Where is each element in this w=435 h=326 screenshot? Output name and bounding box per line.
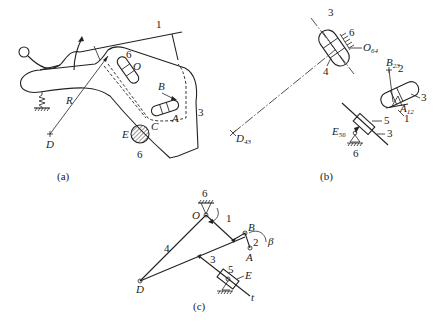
mechanism-figure: R D 6 O B A 3 1 E C 6 (a) xyxy=(0,0,435,326)
label-D: D xyxy=(135,283,144,295)
leader-4 xyxy=(327,58,331,66)
link4 xyxy=(140,215,206,281)
label-t: t xyxy=(251,291,255,303)
label-beta: β xyxy=(267,235,274,247)
handle-ring xyxy=(19,47,29,57)
caption-b: (b) xyxy=(320,170,333,183)
label-1: 1 xyxy=(226,212,232,224)
label-C: C xyxy=(151,120,159,132)
label-4: 4 xyxy=(164,242,170,254)
spring-icon xyxy=(39,92,45,108)
pin-E56 xyxy=(353,131,357,135)
rotation-arrow-head xyxy=(78,36,84,42)
B-arrow-head xyxy=(171,96,177,100)
label-3: 3 xyxy=(198,106,204,118)
label-1: 1 xyxy=(404,112,410,124)
label-6: 6 xyxy=(202,187,208,199)
caption-c: (c) xyxy=(193,300,206,313)
line-D43-O64 xyxy=(233,50,335,133)
ground-hatch-icon xyxy=(218,291,232,294)
label-O64: O64 xyxy=(363,41,378,55)
label-R: R xyxy=(65,94,73,106)
label-2: 2 xyxy=(398,62,404,74)
link1-right-edge xyxy=(172,34,178,60)
label-B: B xyxy=(158,80,165,92)
ground-hatch-icon xyxy=(348,143,362,146)
slider-wedge xyxy=(354,126,360,133)
label-5: 5 xyxy=(228,263,234,275)
label-O: O xyxy=(192,209,200,221)
label-6-bottom: 6 xyxy=(137,148,143,160)
label-O: O xyxy=(133,60,141,72)
label-A: A xyxy=(245,251,253,263)
caption-a: (a) xyxy=(57,170,70,183)
label-A: A xyxy=(171,112,179,124)
label-3-top: 3 xyxy=(328,6,334,18)
line-B23-A12 xyxy=(389,70,393,102)
label-1: 1 xyxy=(156,18,162,30)
label-3: 3 xyxy=(210,253,216,265)
label-2: 2 xyxy=(253,236,259,248)
label-5: 5 xyxy=(384,114,390,126)
label-3-bottom: 3 xyxy=(387,127,393,139)
label-6-bottom: 6 xyxy=(353,147,359,159)
label-E: E xyxy=(244,269,252,281)
label-3-right: 3 xyxy=(421,91,427,103)
label-D: D xyxy=(45,138,54,150)
panel-b: D43 O64 3 6 4 B23 2 3 A12 1 xyxy=(230,6,427,183)
slider-O64 xyxy=(315,26,353,69)
label-D43: D43 xyxy=(235,132,251,146)
leader-E xyxy=(237,276,244,279)
panel-c: 6 4 1 O B 2 A β 3 t xyxy=(135,187,274,313)
label-6-top: 6 xyxy=(349,26,355,38)
label-E56: E56 xyxy=(331,125,346,139)
label-E: E xyxy=(121,128,129,140)
label-4: 4 xyxy=(323,65,329,77)
panel-a: R D 6 O B A 3 1 E C 6 (a) xyxy=(19,18,204,183)
guide-line-3 xyxy=(342,103,388,145)
ground-support-E56 xyxy=(350,135,360,142)
roller-E xyxy=(131,125,149,143)
point-D-cross xyxy=(47,131,53,137)
support-O xyxy=(201,203,211,214)
label-6-top: 6 xyxy=(126,48,132,60)
handle-wire xyxy=(28,52,80,69)
